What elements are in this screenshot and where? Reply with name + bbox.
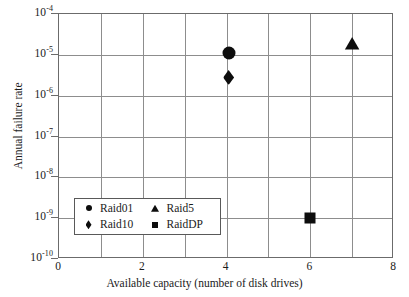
y-axis-tick-marks — [0, 0, 409, 297]
legend-label: Raid10 — [100, 219, 133, 231]
y-axis-tick-label: 10-4 — [34, 7, 53, 19]
chart-figure: 10-410-510-610-710-810-910-10 02468 Avai… — [0, 0, 409, 297]
legend-entry-raid5: Raid5 — [149, 203, 216, 215]
y-axis-tick-labels: 10-410-510-610-710-810-910-10 — [0, 0, 53, 297]
legend-label: Raid5 — [167, 203, 194, 215]
x-axis-tick-label: 8 — [390, 261, 396, 273]
x-axis-tick-label: 6 — [306, 261, 312, 273]
chart-legend: Raid01Raid5Raid10RaidDP — [74, 198, 221, 235]
y-axis-tick-label: 10-5 — [34, 48, 53, 60]
y-axis-title: Annual failure rate — [13, 36, 25, 216]
triangle-icon — [149, 205, 162, 212]
legend-label: Raid01 — [100, 203, 133, 215]
y-axis-tick-label: 10-8 — [34, 171, 53, 183]
legend-entry-raid10: Raid10 — [82, 219, 149, 231]
circle-icon — [82, 205, 95, 211]
square-icon — [149, 222, 162, 228]
y-axis-tick-label: 10-7 — [34, 130, 53, 142]
y-axis-tick-label: 10-6 — [34, 89, 53, 101]
legend-entry-raiddp: RaidDP — [149, 219, 216, 231]
legend-entry-raid01: Raid01 — [82, 203, 149, 215]
x-axis-tick-label: 2 — [139, 261, 145, 273]
legend-label: RaidDP — [167, 219, 203, 231]
x-axis-title: Available capacity (number of disk drive… — [0, 278, 409, 290]
diamond-icon — [82, 220, 95, 229]
y-axis-tick-label: 10-9 — [34, 211, 53, 223]
x-axis-tick-label: 4 — [223, 261, 229, 273]
x-axis-tick-label: 0 — [55, 261, 61, 273]
